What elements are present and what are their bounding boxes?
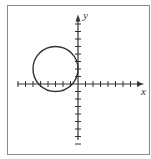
x-axis-label: x [140,85,146,97]
y-axis-label: y [82,9,88,21]
y-axis-arrow-icon [76,15,81,22]
coordinate-plane: x y [0,0,151,159]
